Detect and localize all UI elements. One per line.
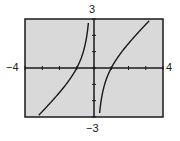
graph-window	[0, 0, 180, 141]
